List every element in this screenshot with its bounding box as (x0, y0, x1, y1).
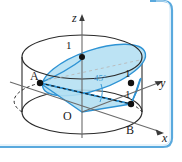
point-label-B: B (126, 124, 134, 136)
point-marker-y-one (128, 80, 134, 86)
tick-label-y-one: 1 (125, 68, 131, 79)
point-marker-B (128, 101, 134, 107)
cylinder-plane-diagram (0, 0, 182, 162)
angle-label-45: 45° (94, 74, 107, 83)
figure-container: z y x O A B 1 1 1 45° (0, 0, 182, 162)
point-marker-z-one (79, 54, 85, 60)
axis-label-y: y (160, 77, 165, 89)
axis-label-z: z (72, 12, 77, 24)
z-axis-arrowhead (79, 14, 85, 21)
tick-label-z-one: 1 (66, 40, 72, 51)
origin-label-O: O (63, 110, 72, 122)
axis-label-x: x (162, 132, 167, 144)
tick-label-x-one: 1 (125, 89, 131, 100)
point-label-A: A (30, 70, 39, 82)
